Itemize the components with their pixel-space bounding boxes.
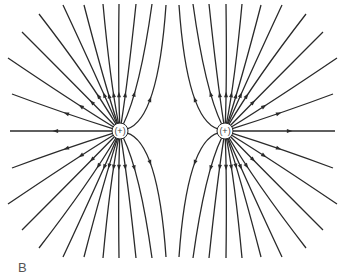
field-line [231,58,337,127]
arrow-icon [117,165,121,171]
arrow-icon [192,96,198,103]
arrow-icon [63,111,69,117]
field-line [22,32,115,126]
field-line [230,32,323,126]
arrow-icon [276,111,282,117]
positive-charge-left: (+) [112,123,128,139]
arrow-icon [53,129,59,133]
field-line [119,138,120,258]
field-line [8,135,114,204]
field-line [231,135,337,204]
arrow-icon [192,160,198,167]
panel-label: B [18,260,27,275]
arrow-icon [224,92,228,98]
field-line [227,5,261,124]
field-line [209,4,224,124]
arrow-icon [101,164,107,171]
field-line [22,136,115,230]
arrow-icon [101,92,107,99]
field-line [179,5,218,129]
field-line [121,138,136,258]
arrow-icon [63,146,69,152]
field-line [127,5,166,129]
field-line [227,138,261,257]
field-line [230,136,323,230]
arrow-icon [238,164,244,171]
field-line [84,5,118,124]
field-line [121,4,136,124]
charges: (+)(+) [112,123,233,139]
field-line [225,4,226,124]
field-line [119,4,120,124]
arrow-icon [238,92,244,99]
charge-label: (+) [114,126,125,136]
field-lines-diagram: (+)(+) [0,0,343,279]
field-line [84,138,118,257]
field-line [8,58,114,127]
arrow-icon [117,92,121,98]
arrow-icon [287,129,293,133]
positive-charge-right: (+) [217,123,233,139]
field-lines [8,4,337,258]
arrow-icon [276,146,282,152]
arrow-icon [147,160,153,167]
field-line [127,133,166,257]
field-line [179,133,218,257]
field-line [209,138,224,258]
charge-label: (+) [219,126,230,136]
field-line [225,138,226,258]
arrow-icon [147,96,153,103]
arrow-icon [224,165,228,171]
